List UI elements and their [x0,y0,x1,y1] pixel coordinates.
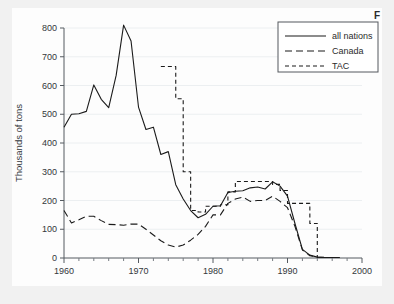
series-line-Canada [64,196,340,257]
y-tick-label: 400 [42,138,57,148]
y-tick-label: 0 [52,253,57,263]
y-tick-label: 500 [42,109,57,119]
y-tick-label: 800 [42,23,57,33]
y-tick-label: 100 [42,224,57,234]
legend-label-Canada: Canada [332,46,364,56]
y-tick-label: 300 [42,167,57,177]
x-tick-label: 2000 [352,266,372,276]
line-chart: 0100200300400500600700800 19601970198019… [0,0,394,304]
x-axis-ticks: 19601970198019902000 [54,258,372,276]
y-axis-ticks: 0100200300400500600700800 [42,23,64,263]
figure-root: F 0100200300400500600700800 196019701980… [0,0,394,304]
x-tick-label: 1990 [277,266,297,276]
y-axis-title: Thousands of tons [13,104,24,182]
legend-label-TAC: TAC [332,61,350,71]
x-tick-label: 1970 [128,266,148,276]
y-tick-label: 700 [42,52,57,62]
x-tick-label: 1960 [54,266,74,276]
legend: all nationsCanadaTAC [278,22,378,72]
legend-label-all-nations: all nations [332,31,373,41]
y-tick-label: 600 [42,81,57,91]
x-tick-label: 1980 [203,266,223,276]
y-tick-label: 200 [42,196,57,206]
